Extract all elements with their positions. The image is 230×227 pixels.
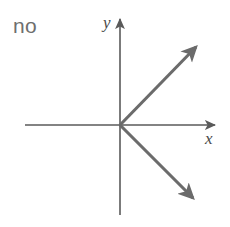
upper-right-vector	[120, 47, 196, 125]
annotation-label-no: no	[13, 15, 37, 36]
lower-right-vector	[120, 125, 193, 198]
x-axis-label: x	[205, 130, 213, 147]
y-axis-label: y	[103, 14, 111, 31]
vector-diagram-figure: no y x	[0, 0, 230, 227]
